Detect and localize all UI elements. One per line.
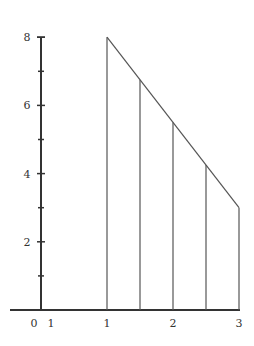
x-tick-label: 1 xyxy=(48,317,55,330)
y-tick-label: 8 xyxy=(24,31,31,44)
x-tick-label: 2 xyxy=(170,317,177,330)
x-tick-label: 3 xyxy=(236,317,243,330)
y-tick-label: 4 xyxy=(24,168,31,181)
x-tick-label: 1 xyxy=(104,317,111,330)
y-tick-label: 6 xyxy=(24,99,31,112)
plot-area xyxy=(107,37,239,310)
chart: 246801123 xyxy=(0,0,254,346)
y-tick-label: 2 xyxy=(24,236,31,249)
x-tick-label: 0 xyxy=(31,317,38,330)
tick-labels: 246801123 xyxy=(24,31,243,330)
